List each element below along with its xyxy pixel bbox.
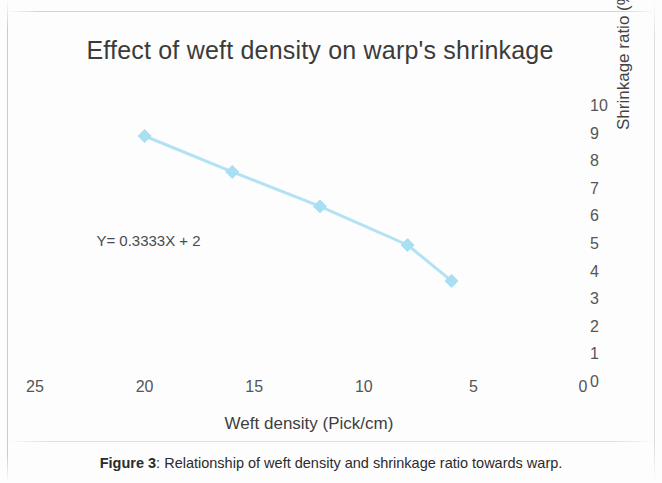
line-chart: Effect of weft density on warp's shrinka… xyxy=(0,0,662,440)
data-point-marker xyxy=(138,130,151,143)
y-axis-title: Shrinkage ratio (%) xyxy=(614,0,634,130)
series-line xyxy=(145,136,452,281)
figure-caption: Figure 3: Relationship of weft density a… xyxy=(0,455,662,471)
x-axis-tick-20: 20 xyxy=(125,378,165,396)
figure-caption-separator: : xyxy=(156,455,164,471)
x-axis-tick-5: 5 xyxy=(453,378,493,396)
y-axis-tick-10: 10 xyxy=(590,97,616,115)
data-point-marker xyxy=(226,165,239,178)
y-axis-tick-6: 6 xyxy=(590,207,616,225)
regression-equation-annotation: Y= 0.3333X + 2 xyxy=(96,232,200,249)
x-axis-tick-0: 0 xyxy=(563,378,603,396)
y-axis-tick-3: 3 xyxy=(590,290,616,308)
figure-caption-text: Relationship of weft density and shrinka… xyxy=(164,455,562,471)
y-axis-tick-1: 1 xyxy=(590,345,616,363)
figure-page: Effect of weft density on warp's shrinka… xyxy=(0,0,662,483)
y-axis-tick-labels: 109876543210 xyxy=(590,86,616,382)
scan-edge-bottom xyxy=(7,441,655,442)
y-axis-tick-5: 5 xyxy=(590,235,616,253)
x-axis-title: Weft density (Pick/cm) xyxy=(35,414,583,434)
data-point-marker xyxy=(313,200,326,213)
x-axis-tick-15: 15 xyxy=(234,378,274,396)
x-axis-tick-25: 25 xyxy=(15,378,55,396)
x-axis-tick-labels: 2520151050 xyxy=(0,378,662,400)
x-axis-tick-10: 10 xyxy=(344,378,384,396)
y-axis-tick-9: 9 xyxy=(590,125,616,143)
y-axis-tick-8: 8 xyxy=(590,152,616,170)
figure-caption-label: Figure 3 xyxy=(100,455,156,471)
y-axis-tick-4: 4 xyxy=(590,263,616,281)
y-axis-tick-7: 7 xyxy=(590,180,616,198)
y-axis-tick-2: 2 xyxy=(590,318,616,336)
chart-title: Effect of weft density on warp's shrinka… xyxy=(0,36,640,65)
